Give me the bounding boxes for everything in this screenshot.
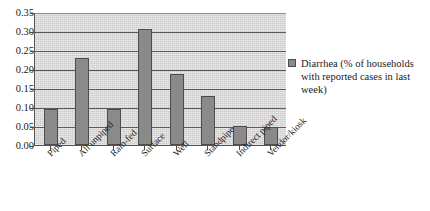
plot-top-border bbox=[35, 13, 286, 14]
y-axis-tick-mark bbox=[30, 146, 34, 147]
gridline bbox=[35, 70, 286, 71]
plot-area bbox=[34, 13, 286, 146]
gridline bbox=[35, 89, 286, 90]
gridline bbox=[35, 32, 286, 33]
y-axis: 0.000.050.100.150.200.250.300.35 bbox=[0, 0, 34, 211]
bar bbox=[75, 58, 89, 145]
legend-label: Diarrhea (% of households with reported … bbox=[301, 57, 426, 96]
gridline bbox=[35, 108, 286, 109]
gridline bbox=[35, 127, 286, 128]
bar bbox=[170, 74, 184, 145]
chart-screenshot: 0.000.050.100.150.200.250.300.35 PipedAl… bbox=[0, 0, 430, 211]
legend-swatch-icon bbox=[288, 59, 296, 67]
chart-legend: Diarrhea (% of households with reported … bbox=[288, 57, 426, 96]
gridline bbox=[35, 51, 286, 52]
bar bbox=[138, 29, 152, 145]
bar bbox=[201, 96, 215, 145]
